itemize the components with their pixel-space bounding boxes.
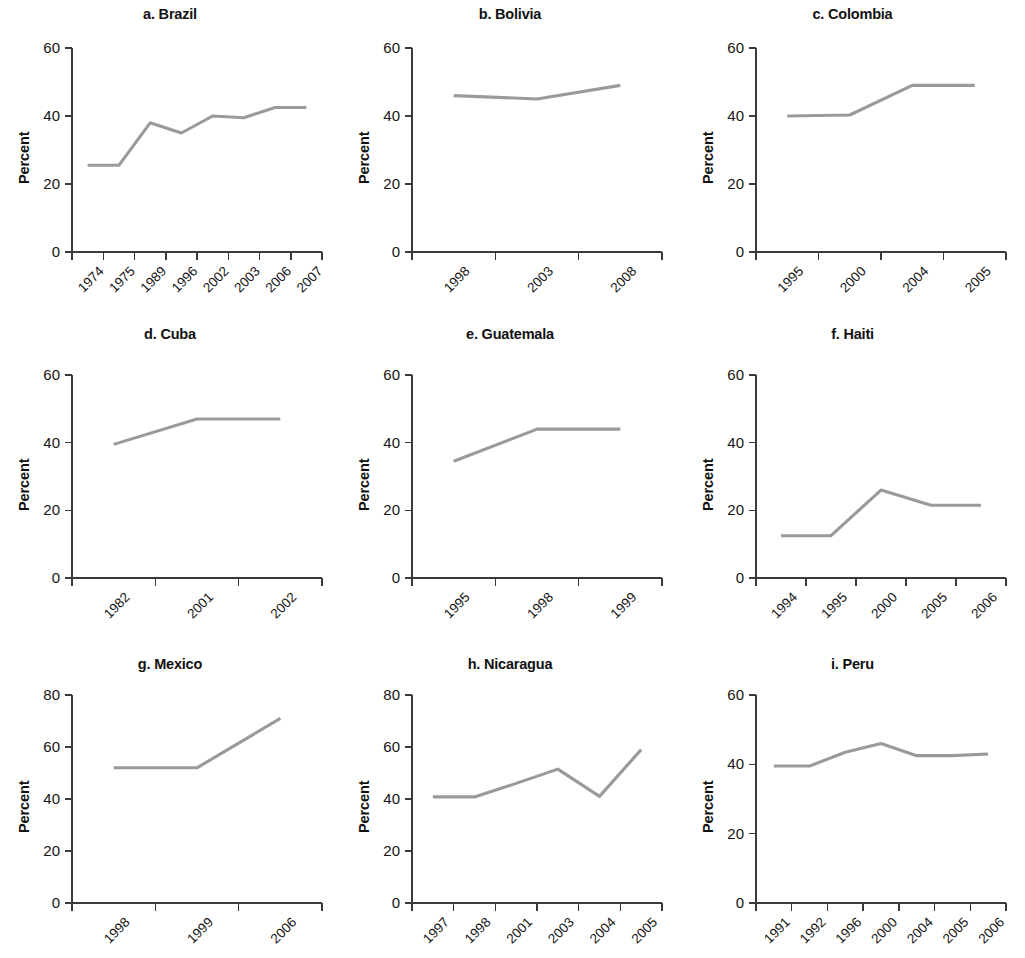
plot-area: 02040601995200020042005	[680, 0, 1025, 320]
y-tick-label: 40	[727, 434, 744, 451]
chart-panel-cuba: d. Cuba Percent 0204060198220012002	[0, 320, 340, 650]
x-tick-label: 2004	[904, 914, 936, 946]
x-tick-label: 1998	[441, 264, 473, 296]
chart-panel-guatemala: e. Guatemala Percent 0204060199519981999	[340, 320, 680, 650]
y-tick-label: 0	[52, 894, 60, 911]
y-tick-label: 60	[43, 738, 60, 755]
y-tick-label: 60	[383, 39, 400, 56]
y-tick-label: 40	[43, 434, 60, 451]
x-tick-label: 2006	[262, 264, 294, 296]
plot-area: 020406019941995200020052006	[680, 320, 1025, 650]
y-tick-label: 0	[392, 894, 400, 911]
y-tick-label: 20	[383, 175, 400, 192]
x-tick-label: 2004	[900, 263, 932, 295]
x-tick-label: 2003	[231, 264, 263, 296]
x-tick-label: 2000	[868, 915, 900, 947]
data-series-line	[433, 750, 641, 797]
y-tick-label: 0	[392, 569, 400, 586]
plot-area: 0204060198220012002	[0, 320, 340, 650]
y-tick-label: 60	[383, 738, 400, 755]
y-tick-label: 40	[383, 107, 400, 124]
x-tick-label: 2005	[628, 915, 660, 947]
y-tick-label: 0	[392, 243, 400, 260]
x-tick-label: 1996	[833, 915, 865, 947]
y-tick-label: 40	[727, 755, 744, 772]
chart-panel-brazil: a. Brazil Percent 0204060197419751989199…	[0, 0, 340, 320]
x-tick-label: 1998	[101, 915, 133, 947]
plot-area: 0204060199519981999	[340, 320, 680, 650]
x-tick-label: 1994	[768, 589, 800, 621]
x-tick-label: 2000	[837, 264, 869, 296]
x-tick-label: 2006	[268, 915, 300, 947]
plot-area: 020406080199819992006	[0, 650, 340, 958]
plot-area: 020406019741975198919962002200320062007	[0, 0, 340, 320]
x-tick-label: 2001	[503, 915, 535, 947]
chart-panel-bolivia: b. Bolivia Percent 0204060199820032008	[340, 0, 680, 320]
y-tick-label: 20	[43, 175, 60, 192]
x-tick-label: 1999	[184, 915, 216, 947]
x-tick-label: 1998	[462, 915, 494, 947]
data-series-line	[454, 85, 621, 99]
data-series-line	[114, 419, 281, 444]
y-tick-label: 0	[736, 243, 744, 260]
y-tick-label: 0	[52, 243, 60, 260]
y-tick-label: 0	[736, 569, 744, 586]
y-tick-label: 60	[383, 366, 400, 383]
x-tick-label: 1975	[106, 264, 138, 296]
y-tick-label: 0	[736, 894, 744, 911]
x-tick-label: 2004	[587, 914, 619, 946]
x-tick-label: 2002	[268, 590, 300, 622]
x-tick-label: 2006	[975, 915, 1007, 947]
y-tick-label: 20	[43, 842, 60, 859]
chart-panel-peru: i. Peru Percent 020406019911992199620002…	[680, 650, 1025, 958]
y-tick-label: 40	[43, 107, 60, 124]
chart-panel-nicaragua: h. Nicaragua Percent 0204060801997199820…	[340, 650, 680, 958]
x-tick-label: 2002	[200, 264, 232, 296]
x-tick-label: 1974	[75, 263, 107, 295]
x-tick-label: 1998	[524, 590, 556, 622]
data-series-line	[781, 490, 981, 536]
x-tick-label: 2008	[608, 264, 640, 296]
y-tick-label: 60	[727, 366, 744, 383]
data-series-line	[774, 744, 988, 767]
figure-canvas: a. Brazil Percent 0204060197419751989199…	[0, 0, 1025, 958]
y-tick-label: 20	[727, 501, 744, 518]
x-tick-label: 2000	[868, 590, 900, 622]
y-tick-label: 20	[383, 501, 400, 518]
y-tick-label: 60	[43, 366, 60, 383]
y-tick-label: 0	[52, 569, 60, 586]
x-tick-label: 1997	[420, 915, 452, 947]
y-tick-label: 20	[383, 842, 400, 859]
y-tick-label: 20	[43, 501, 60, 518]
y-tick-label: 40	[727, 107, 744, 124]
y-tick-label: 60	[727, 39, 744, 56]
y-tick-label: 40	[383, 790, 400, 807]
x-tick-label: 2003	[524, 264, 556, 296]
x-tick-label: 1992	[797, 915, 829, 947]
x-tick-label: 2005	[940, 915, 972, 947]
x-tick-label: 1999	[608, 590, 640, 622]
data-series-line	[88, 108, 307, 166]
x-tick-label: 1982	[101, 590, 133, 622]
y-tick-label: 40	[383, 434, 400, 451]
x-tick-label: 1996	[169, 264, 201, 296]
y-tick-label: 20	[727, 175, 744, 192]
x-tick-label: 1991	[761, 915, 793, 947]
x-tick-label: 2001	[184, 590, 216, 622]
y-tick-label: 60	[727, 686, 744, 703]
data-series-line	[114, 718, 281, 767]
plot-area: 0204060199820032008	[340, 0, 680, 320]
x-tick-label: 2006	[968, 590, 1000, 622]
plot-area: 020406080199719982001200320042005	[340, 650, 680, 958]
chart-panel-mexico: g. Mexico Percent 020406080199819992006	[0, 650, 340, 958]
y-tick-label: 40	[43, 790, 60, 807]
data-series-line	[454, 429, 621, 461]
y-tick-label: 60	[43, 39, 60, 56]
x-tick-label: 2007	[294, 264, 326, 296]
x-tick-label: 1989	[137, 264, 169, 296]
x-tick-label: 1995	[818, 590, 850, 622]
data-series-line	[787, 85, 975, 116]
x-tick-label: 2005	[918, 590, 950, 622]
y-tick-label: 80	[383, 686, 400, 703]
plot-area: 02040601991199219962000200420052006	[680, 650, 1025, 958]
